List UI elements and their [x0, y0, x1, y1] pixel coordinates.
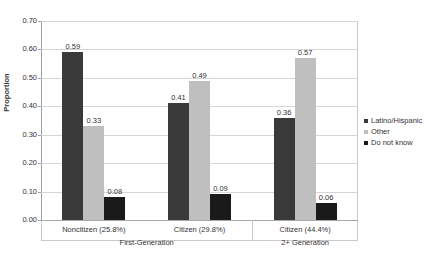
bar: 0.41 — [168, 103, 189, 220]
bar: 0.57 — [295, 58, 316, 220]
bar-value-label: 0.06 — [319, 193, 334, 201]
bar-value-label: 0.33 — [87, 117, 102, 125]
bar-value-label: 0.59 — [66, 43, 81, 51]
y-axis-title: Proportion — [2, 53, 11, 133]
x-group-label: 2+ Generation — [245, 239, 365, 247]
y-tick-mark — [38, 220, 41, 221]
x-category-label: Citizen (29.8%) — [140, 226, 260, 234]
bar: 0.33 — [83, 126, 104, 220]
y-tick-mark — [38, 78, 41, 79]
bar: 0.59 — [62, 52, 83, 220]
y-tick-label: 0.00 — [3, 216, 37, 224]
chart-legend: Latino/HispanicOtherDo not know — [364, 116, 422, 149]
legend-item[interactable]: Latino/Hispanic — [364, 116, 422, 125]
bar-value-label: 0.08 — [108, 188, 123, 196]
bar-value-label: 0.49 — [192, 71, 207, 79]
bar-value-label: 0.36 — [277, 108, 292, 116]
x-group-separator — [252, 220, 253, 241]
y-tick-mark — [38, 49, 41, 50]
legend-swatch-icon — [364, 130, 368, 134]
y-tick-label: 0.40 — [3, 103, 37, 111]
bar: 0.06 — [316, 203, 337, 220]
y-tick-mark — [38, 192, 41, 193]
x-group-label: First-Generation — [87, 239, 207, 247]
y-tick-label: 0.50 — [3, 74, 37, 82]
plot-area: 0.590.330.080.410.490.090.360.570.06 — [41, 21, 358, 220]
legend-item[interactable]: Other — [364, 127, 422, 136]
gridline — [41, 21, 358, 22]
y-tick-mark — [38, 163, 41, 164]
legend-item[interactable]: Do not know — [364, 138, 422, 147]
bar-value-label: 0.57 — [298, 48, 313, 56]
bar: 0.36 — [274, 118, 295, 220]
legend-label: Do not know — [371, 139, 413, 147]
y-tick-label: 0.20 — [3, 159, 37, 167]
bar-chart: 0.590.330.080.410.490.090.360.570.06 Pro… — [0, 0, 429, 255]
y-tick-mark — [38, 21, 41, 22]
y-tick-mark — [38, 135, 41, 136]
bar: 0.49 — [189, 81, 210, 220]
bar: 0.08 — [104, 197, 125, 220]
bar-value-label: 0.41 — [171, 94, 186, 102]
x-category-label: Noncitizen (25.8%) — [34, 226, 154, 234]
y-tick-mark — [38, 106, 41, 107]
gridline — [41, 220, 358, 221]
legend-label: Latino/Hispanic — [371, 117, 422, 125]
y-tick-label: 0.70 — [3, 17, 37, 25]
y-tick-label: 0.10 — [3, 188, 37, 196]
legend-label: Other — [371, 128, 390, 136]
bar-value-label: 0.09 — [213, 185, 228, 193]
y-tick-label: 0.60 — [3, 46, 37, 54]
legend-swatch-icon — [364, 119, 368, 123]
bar: 0.09 — [210, 194, 231, 220]
x-category-label: Citizen (44.4%) — [245, 226, 365, 234]
y-tick-label: 0.30 — [3, 131, 37, 139]
legend-swatch-icon — [364, 141, 368, 145]
